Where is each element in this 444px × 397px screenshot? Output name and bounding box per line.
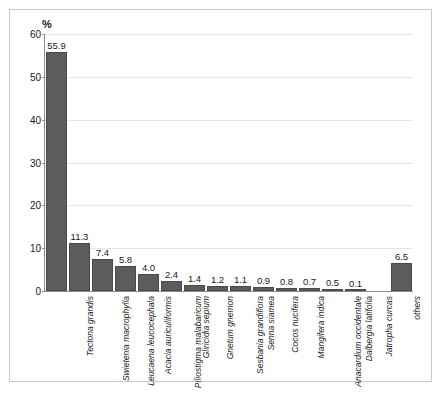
bar[interactable] [92,259,113,291]
bar[interactable] [230,286,251,291]
x-axis-category-labels: Tectona grandisSwietenia macrophyllaLeuc… [44,296,413,382]
y-axis-tick-label: 50 [30,71,41,82]
x-axis-label-slot: Anacardium occidentale [297,296,320,382]
x-axis-label-slot: Acacia auriculiformis [113,296,136,382]
bar[interactable] [184,285,205,291]
bar-value-label: 4.0 [137,262,160,273]
bar[interactable] [345,289,366,291]
bar[interactable] [253,287,274,291]
bar-group[interactable]: 1.1 [229,34,252,291]
bar-group[interactable]: 4.0 [137,34,160,291]
bar-value-label: 1.1 [229,274,252,285]
x-axis-label-slot: Mangifera indica [274,296,297,382]
bar-group[interactable]: 2.4 [160,34,183,291]
x-axis-label-slot: Sesbania grandiflora [205,296,228,382]
bar-value-label: 1.4 [183,273,206,284]
x-axis-label-slot: Dalbergia latifolia [320,296,343,382]
y-axis-tick-label: 30 [30,157,41,168]
x-axis-label-slot: Swietenia macrophylla [67,296,90,382]
bar-value-label: 6.5 [390,251,413,262]
bar[interactable] [299,288,320,291]
bar[interactable] [322,289,343,291]
bar-value-label: 1.2 [206,274,229,285]
y-axis-tick-label: 20 [30,200,41,211]
bar-group[interactable]: 0.5 [321,34,344,291]
x-axis-label-slot: Senna siamea [228,296,251,382]
bar-group[interactable]: 7.4 [91,34,114,291]
bar[interactable] [115,266,136,291]
bar-value-label: 0.8 [275,276,298,287]
bar-group[interactable]: 0.9 [252,34,275,291]
bar[interactable] [69,243,90,291]
bar-group[interactable]: 1.4 [183,34,206,291]
bar-value-label: 55.9 [45,40,68,51]
bar-group[interactable]: 6.5 [390,34,413,291]
bar-group[interactable]: 55.9 [45,34,68,291]
y-axis-tick-label: 0 [35,286,41,297]
bar[interactable] [207,286,228,291]
bar-value-label: 0.9 [252,275,275,286]
bar-value-label: 0.5 [321,277,344,288]
bar-group[interactable]: 1.2 [206,34,229,291]
plot-area: 0102030405060 55.911.37.45.84.02.41.41.2… [44,34,413,292]
x-axis-label-slot: Gnetum gnemon [182,296,205,382]
bar-group[interactable]: 5.8 [114,34,137,291]
chart-figure: % 0102030405060 55.911.37.45.84.02.41.41… [9,9,432,382]
bar-value-label: 7.4 [91,247,114,258]
bar[interactable] [46,52,67,291]
bar-group[interactable]: 11.3 [68,34,91,291]
x-axis-label-slot: Gliricidia sepium [159,296,182,382]
bar[interactable] [161,281,182,291]
bar[interactable] [276,288,297,291]
bar-group[interactable]: 0.1 [344,34,367,291]
y-axis-tick-label: 40 [30,114,41,125]
x-axis-label-slot: others [389,296,412,382]
bar[interactable] [138,274,159,291]
x-axis-label-slot: Jatropha curcas [343,296,366,382]
y-axis-tick-mark [42,291,45,292]
y-axis-tick-label: 60 [30,29,41,40]
bar-value-label: 5.8 [114,254,137,265]
x-axis-label-slot: Cocos nucifera [251,296,274,382]
bar-value-label: 0.1 [344,278,367,289]
x-axis-label-slot: Leucaena leucocephala [90,296,113,382]
x-axis-label-slot: Tectona grandis [44,296,67,382]
x-axis-label-slot: Piliostigma malabaricum [136,296,159,382]
bar-group[interactable]: 0.8 [275,34,298,291]
bar-group[interactable]: 0.7 [298,34,321,291]
x-axis-label: others [412,296,421,320]
bar-value-label: 0.7 [298,276,321,287]
bar-value-label: 2.4 [160,269,183,280]
y-axis-unit-label: % [42,18,52,30]
bar-series: 55.911.37.45.84.02.41.41.21.10.90.80.70.… [45,34,413,291]
y-axis-tick-label: 10 [30,243,41,254]
bar-value-label: 11.3 [68,231,91,242]
bar[interactable] [391,263,412,291]
